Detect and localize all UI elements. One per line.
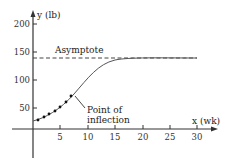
- y-tick-label: 150: [14, 47, 30, 57]
- chart: y (lb) x (wk) 200 150 100 50 5 10 15 20 …: [0, 0, 226, 161]
- inflection-label-line2: inflection: [87, 115, 130, 125]
- y-tick-label: 200: [14, 19, 30, 29]
- x-axis-arrow: [211, 127, 218, 132]
- x-tick-label: 15: [110, 132, 121, 142]
- y-axis-arrow: [31, 10, 36, 17]
- inflection-label-line1: Point of: [87, 105, 123, 115]
- x-tick-label: 5: [57, 132, 62, 142]
- x-axis-label: x (wk): [192, 116, 220, 126]
- y-axis-label: y (lb): [36, 10, 61, 20]
- y-tick-label: 50: [19, 103, 30, 113]
- x-tick-label: 10: [83, 132, 94, 142]
- y-tick-label: 100: [14, 75, 30, 85]
- x-tick-label: 25: [165, 132, 176, 142]
- inflection-pointer: [75, 96, 85, 108]
- data-points: [37, 95, 73, 122]
- x-tick-label: 20: [138, 132, 149, 142]
- asymptote-label: Asymptote: [54, 45, 103, 55]
- x-tick-label: 30: [192, 132, 203, 142]
